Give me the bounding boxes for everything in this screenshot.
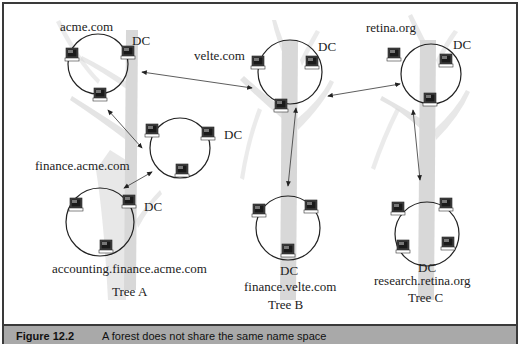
computer-icon xyxy=(93,88,107,101)
tree-label-b: Tree B xyxy=(268,298,303,311)
figure-caption-text: A forest does not share the same name sp… xyxy=(102,330,326,342)
computer-icon xyxy=(201,127,215,140)
dc-label-retina-org: DC xyxy=(453,38,471,51)
computer-icon xyxy=(145,124,159,137)
computer-icon xyxy=(439,198,453,211)
domain-label-research-retina-org: research.retina.org xyxy=(374,274,470,287)
figure-caption: Figure 12.2 A forest does not share the … xyxy=(2,326,518,344)
computer-icon xyxy=(305,56,319,69)
computer-icon xyxy=(387,48,401,61)
computer-icon xyxy=(69,198,83,211)
computer-icon xyxy=(65,48,79,61)
dc-label-research-retina-org: DC xyxy=(418,261,436,274)
dc-label-velte-com: DC xyxy=(318,40,336,53)
computer-icon xyxy=(99,240,113,253)
tree-label-a: Tree A xyxy=(112,285,147,298)
domain-label-finance-velte-com: finance.velte.com xyxy=(244,280,336,293)
domain-label-finance-acme-com: finance.acme.com xyxy=(35,159,130,172)
domain-label-accounting-finance-acme-com: accounting.finance.acme.com xyxy=(52,262,207,275)
computer-icon xyxy=(439,54,453,67)
computer-icon xyxy=(391,202,405,215)
computer-icon xyxy=(396,240,410,253)
domain-label-retina-org: retina.org xyxy=(366,21,416,34)
dc-label-finance-velte-com: DC xyxy=(280,264,298,277)
computer-icon xyxy=(304,200,318,213)
tree-label-c: Tree C xyxy=(408,291,443,304)
computer-icon xyxy=(281,244,295,257)
dc-label-acme-com: DC xyxy=(132,34,150,47)
computer-icon xyxy=(274,99,288,112)
trust-acme-velte xyxy=(142,72,252,88)
figure-number: Figure 12.2 xyxy=(16,330,74,342)
trust-velte-retina xyxy=(328,84,400,96)
domain-label-acme-com: acme.com xyxy=(60,20,113,33)
computer-icon xyxy=(252,204,266,217)
forest-diagram: acme.com DC finance.acme.com DC accounti… xyxy=(0,0,520,344)
computer-icon xyxy=(441,237,455,250)
computer-icon xyxy=(423,93,437,106)
dc-label-accounting-finance-acme-com: DC xyxy=(144,200,162,213)
computer-icon xyxy=(175,164,189,177)
domain-label-velte-com: velte.com xyxy=(194,49,245,62)
computer-icon xyxy=(251,56,265,69)
computer-icon xyxy=(122,195,136,208)
domain-finance-acme-com xyxy=(145,118,215,178)
dc-label-finance-acme-com: DC xyxy=(224,128,242,141)
